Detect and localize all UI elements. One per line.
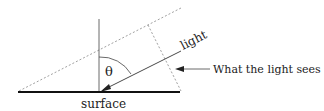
light-arrowhead-icon (100, 84, 111, 92)
annotation-arrowhead-icon (175, 66, 184, 72)
surface-label: surface (81, 97, 126, 111)
dashed-perpendicular-line (148, 25, 181, 91)
annotation-label: What the light sees (213, 63, 321, 76)
angle-label: θ (105, 64, 113, 79)
light-label: light (178, 27, 209, 52)
light-ray (103, 51, 181, 90)
lambert-diagram: θ light surface What the light sees (0, 0, 324, 111)
dashed-extent-line (19, 8, 181, 91)
angle-arc (99, 57, 131, 74)
